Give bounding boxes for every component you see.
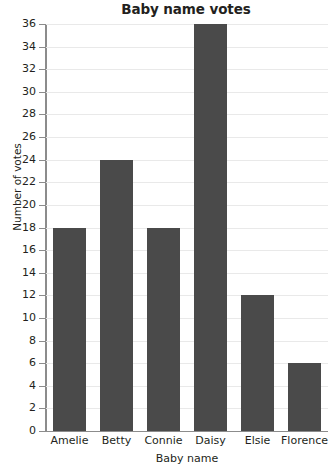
- y-axis-tick-label: 2: [2, 402, 36, 413]
- x-axis-tick-label: Connie: [140, 434, 187, 447]
- y-axis-tick-label: 18: [2, 222, 36, 233]
- y-axis-tick-labels: 024681012141618202224262830323436: [0, 0, 36, 471]
- y-axis-tick-label: 30: [2, 86, 36, 97]
- y-axis-tick-label: 32: [2, 63, 36, 74]
- y-axis-tick-mark: [39, 24, 45, 25]
- y-axis-tick-label: 26: [2, 131, 36, 142]
- gridline: [46, 431, 328, 432]
- plot-area: [46, 24, 328, 431]
- y-axis-tick-mark: [39, 295, 45, 296]
- bar: [53, 228, 86, 432]
- x-axis-tick-label: Betty: [93, 434, 140, 447]
- y-axis-tick-mark: [39, 205, 45, 206]
- y-axis-tick-mark: [39, 182, 45, 183]
- bar: [147, 228, 180, 432]
- y-axis-tick-mark: [39, 273, 45, 274]
- y-axis-tick-mark: [39, 114, 45, 115]
- y-axis-tick-label: 22: [2, 176, 36, 187]
- y-axis-tick-label: 28: [2, 108, 36, 119]
- y-axis-tick-label: 24: [2, 154, 36, 165]
- y-axis-tick-mark: [39, 47, 45, 48]
- y-axis-tick-mark: [39, 228, 45, 229]
- bars-group: [46, 24, 328, 431]
- bar: [100, 160, 133, 431]
- y-axis-tick-mark: [39, 431, 45, 432]
- y-axis-tick-mark: [39, 341, 45, 342]
- bar-chart-figure: Baby name votes Number of votes 02468101…: [0, 0, 334, 471]
- y-axis-tick-label: 4: [2, 380, 36, 391]
- y-axis-tick-mark: [39, 137, 45, 138]
- x-axis-title: Baby name: [46, 452, 328, 465]
- y-axis-tick-label: 14: [2, 267, 36, 278]
- y-axis-tick-label: 36: [2, 18, 36, 29]
- y-axis-tick-mark: [39, 386, 45, 387]
- chart-title: Baby name votes: [46, 1, 326, 17]
- y-axis-tick-label: 6: [2, 357, 36, 368]
- y-axis-tick-mark: [39, 69, 45, 70]
- y-axis-tick-mark: [39, 92, 45, 93]
- bar: [241, 295, 274, 431]
- y-axis-tick-mark: [39, 160, 45, 161]
- y-axis-tick-mark: [39, 250, 45, 251]
- y-axis-tick-label: 12: [2, 289, 36, 300]
- y-axis-tick-mark: [39, 363, 45, 364]
- y-axis-tick-mark: [39, 318, 45, 319]
- bar: [288, 363, 321, 431]
- x-axis-tick-labels: AmelieBettyConnieDaisyElsieFlorence: [46, 434, 328, 450]
- x-axis-tick-label: Florence: [281, 434, 328, 447]
- y-axis-tick-label: 16: [2, 244, 36, 255]
- x-axis-tick-label: Elsie: [234, 434, 281, 447]
- y-axis-tick-label: 10: [2, 312, 36, 323]
- y-axis-tick-label: 0: [2, 425, 36, 436]
- y-axis-tick-label: 34: [2, 41, 36, 52]
- y-axis-tick-mark: [39, 408, 45, 409]
- x-axis-tick-label: Amelie: [46, 434, 93, 447]
- y-axis-tick-label: 20: [2, 199, 36, 210]
- x-axis-tick-label: Daisy: [187, 434, 234, 447]
- bar: [194, 24, 227, 431]
- y-axis-tick-label: 8: [2, 335, 36, 346]
